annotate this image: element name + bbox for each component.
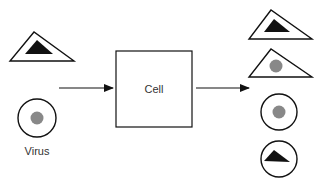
gray-dot-core-icon [31, 112, 44, 125]
gray-dot-core-icon [270, 60, 283, 73]
output-triangle-black-core [249, 10, 312, 39]
cell-label: Cell [145, 83, 164, 95]
input-circle-virus [18, 99, 56, 137]
output-circle-gray-core [261, 94, 297, 130]
output-circle-black-core [261, 141, 297, 177]
virus-cell-diagram: Virus Cell [0, 0, 318, 188]
virus-label: Virus [25, 145, 50, 157]
output-triangle-gray-core [249, 49, 312, 77]
gray-dot-core-icon [273, 106, 286, 119]
input-triangle-virus [10, 32, 74, 61]
